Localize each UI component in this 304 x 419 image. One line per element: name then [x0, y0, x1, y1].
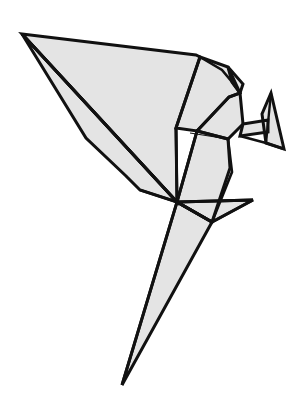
origami-bird-figure [0, 0, 304, 419]
